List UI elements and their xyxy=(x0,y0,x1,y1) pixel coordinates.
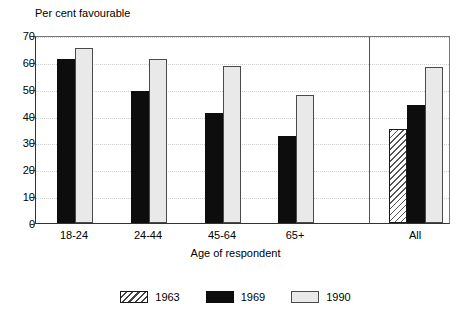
legend-swatch-1969 xyxy=(206,291,234,303)
bar-1969-All xyxy=(407,105,425,223)
bar-1990-65+ xyxy=(296,95,314,223)
legend-swatch-1963 xyxy=(120,291,148,303)
bar-1990-18-24 xyxy=(75,48,93,223)
chart-legend: 196319691990 xyxy=(0,291,471,303)
legend-label-1969: 1969 xyxy=(241,291,265,303)
bar-1969-45-64 xyxy=(205,113,223,223)
bar-chart: Per cent favourable 010203040506070 18-2… xyxy=(0,0,471,323)
y-tick-mark xyxy=(30,224,35,225)
x-tick-label-24-44: 24-44 xyxy=(134,229,162,241)
x-tick-label-18-24: 18-24 xyxy=(60,229,88,241)
bar-1990-45-64 xyxy=(223,66,241,223)
bar-1990-24-44 xyxy=(149,59,167,223)
plot-area xyxy=(35,36,450,224)
legend-label-1990: 1990 xyxy=(326,291,350,303)
legend-item-1963[interactable]: 1963 xyxy=(120,291,179,303)
x-tick-label-All: All xyxy=(409,229,421,241)
bar-1969-24-44 xyxy=(131,91,149,223)
bar-1969-65+ xyxy=(278,136,296,223)
x-tick-label-45-64: 45-64 xyxy=(208,229,236,241)
bar-1990-All xyxy=(425,67,443,223)
legend-label-1963: 1963 xyxy=(155,291,179,303)
legend-swatch-1990 xyxy=(291,291,319,303)
group-separator xyxy=(369,37,370,223)
bar-1963-All xyxy=(389,129,407,223)
legend-item-1969[interactable]: 1969 xyxy=(206,291,265,303)
y-axis-title: Per cent favourable xyxy=(35,7,130,20)
legend-item-1990[interactable]: 1990 xyxy=(291,291,350,303)
x-tick-label-65+: 65+ xyxy=(286,229,305,241)
y-axis: 010203040506070 xyxy=(0,36,35,224)
bar-1969-18-24 xyxy=(57,59,75,223)
x-axis-title: Age of respondent xyxy=(0,247,471,260)
bars-layer xyxy=(36,37,449,223)
